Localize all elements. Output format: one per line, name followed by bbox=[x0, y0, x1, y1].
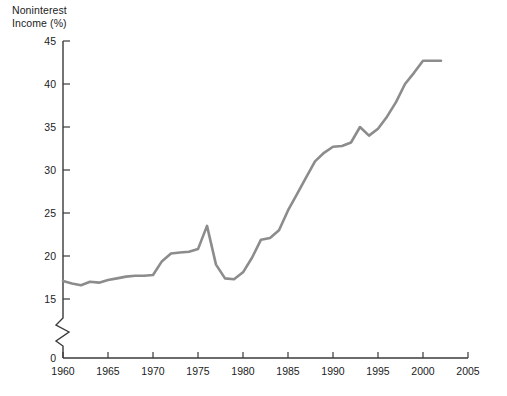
y-tick-label: 45 bbox=[44, 35, 56, 47]
x-tick-label: 1970 bbox=[141, 365, 165, 377]
x-tick-label: 2005 bbox=[456, 365, 480, 377]
x-tick-label: 1960 bbox=[51, 365, 75, 377]
x-tick-label: 1965 bbox=[96, 365, 120, 377]
x-tick-label: 2000 bbox=[411, 365, 435, 377]
y-tick-label: 15 bbox=[44, 293, 56, 305]
y-tick-label: 40 bbox=[44, 78, 56, 90]
y-tick-label: 25 bbox=[44, 207, 56, 219]
x-tick-label: 1980 bbox=[231, 365, 255, 377]
x-tick-label: 1990 bbox=[321, 365, 345, 377]
data-series-group bbox=[63, 61, 441, 285]
axes-group bbox=[56, 41, 468, 358]
x-tick-group: 1960196519701975198019851990199520002005 bbox=[51, 352, 480, 377]
line-chart-plot: 015202530354045 196019651970197519801985… bbox=[0, 0, 507, 396]
y-tick-label: 20 bbox=[44, 250, 56, 262]
y-tick-label: 0 bbox=[50, 352, 56, 364]
y-tick-label: 30 bbox=[44, 164, 56, 176]
x-tick-label: 1975 bbox=[186, 365, 210, 377]
y-axis-line bbox=[56, 41, 69, 358]
chart-container: NoninterestIncome (%) 015202530354045 19… bbox=[0, 0, 507, 396]
y-tick-label: 35 bbox=[44, 121, 56, 133]
data-line bbox=[63, 61, 441, 285]
x-tick-label: 1985 bbox=[276, 365, 300, 377]
y-tick-group: 015202530354045 bbox=[44, 35, 70, 364]
x-tick-label: 1995 bbox=[366, 365, 390, 377]
